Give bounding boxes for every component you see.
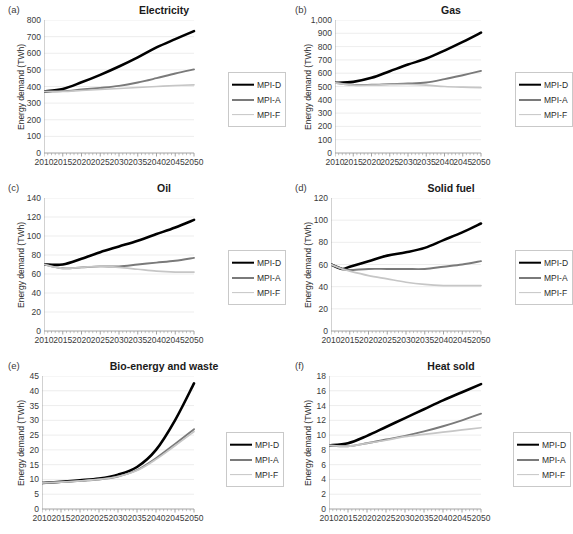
panel-title: Electricity [46,4,282,16]
x-axis-tick-label: 2010 [322,335,341,345]
x-axis-tick-label: 2040 [434,335,453,345]
x-axis-tick-label: 2045 [453,513,472,523]
series-line-mpi-d [44,220,194,265]
chart-panel-f: (f)Heat soldEnergy demand (TWh)024681012… [287,356,573,534]
chart-panel-e: (e)Bio-energy and wasteEnergy demand (TW… [0,356,286,534]
y-axis-tick-label: 40 [32,288,41,298]
series-line-mpi-f [329,428,481,447]
legend-item-mpi-d: MPI-D [232,255,281,270]
y-axis-tick-label: 25 [30,430,39,440]
y-axis-tick-label: 1,000 [311,15,332,25]
y-axis-label: Energy demand (TWh) [16,383,26,503]
y-axis-tick-label: 2 [321,489,326,499]
y-axis-tick-label: 16 [317,386,326,396]
x-axis-tick-label: 2025 [377,513,396,523]
x-axis-tick-label: 2045 [453,335,472,345]
legend: MPI-DMPI-AMPI-F [513,432,571,487]
x-axis-tick-label: 2020 [362,157,381,167]
y-axis-tick-label: 500 [27,65,41,75]
x-axis-tick-label: 2010 [35,335,54,345]
x-axis-tick-label: 2010 [33,513,52,523]
x-axis-tick-label: 2045 [166,513,185,523]
legend: MPI-DMPI-AMPI-F [515,72,573,127]
legend-item-mpi-d: MPI-D [232,77,281,92]
y-axis-tick-label: 12 [317,415,326,425]
legend: MPI-DMPI-AMPI-F [228,72,286,127]
x-axis-tick-label: 2030 [109,513,128,523]
panel-letter-label: (b) [295,4,307,15]
x-axis-tick-label: 2015 [340,335,359,345]
panel-title: Solid fuel [333,182,569,194]
y-axis-tick-label: 700 [27,32,41,42]
y-axis-tick-label: 10 [317,430,326,440]
y-axis-tick-label: 18 [317,371,326,381]
x-axis-tick-label: 2020 [71,513,90,523]
y-axis-tick-label: 14 [317,401,326,411]
plot-canvas [44,198,196,341]
x-axis-tick-label: 2035 [128,335,147,345]
x-axis-tick-label: 2020 [359,335,378,345]
x-axis-tick-label: 2035 [415,335,434,345]
chart-panel-a: (a)ElectricityEnergy demand (TWh)0100200… [0,0,286,178]
x-axis-tick-label: 2025 [378,335,397,345]
legend-item-mpi-d: MPI-D [517,437,566,452]
y-axis-tick-label: 600 [27,48,41,58]
legend-item-label: MPI-A [544,273,568,283]
legend: MPI-DMPI-AMPI-F [515,250,573,305]
y-axis-tick-label: 15 [30,460,39,470]
y-axis-tick-label: 100 [318,135,332,145]
plot-area: 01002003004005006007008009001,0002010201… [335,20,481,153]
y-axis-label: Energy demand (TWh) [303,205,313,325]
x-axis-tick-label: 2045 [166,157,185,167]
x-axis-tick-label: 2020 [72,157,91,167]
y-axis-tick-label: 10 [30,474,39,484]
x-axis-tick-label: 2030 [397,335,416,345]
y-axis-tick-label: 6 [321,460,326,470]
y-axis-tick-label: 80 [32,250,41,260]
y-axis-tick-label: 60 [319,260,328,270]
legend-item-label: MPI-D [542,440,566,450]
plot-canvas [329,376,483,519]
series-line-mpi-d [44,31,194,91]
y-axis-tick-label: 140 [27,193,41,203]
x-axis-tick-label: 2030 [399,157,418,167]
y-axis-tick-label: 5 [34,489,39,499]
y-axis-tick-label: 20 [319,304,328,314]
plot-canvas [335,20,483,163]
panel-letter-label: (d) [295,182,307,193]
x-axis-tick-label: 2025 [91,157,110,167]
x-axis-tick-label: 2030 [110,335,129,345]
legend-item-mpi-f: MPI-F [519,285,568,300]
panel-title: Oil [46,182,282,194]
x-axis-tick-label: 2015 [344,157,363,167]
x-axis-tick-label: 2045 [166,335,185,345]
y-axis-tick-label: 200 [27,115,41,125]
legend-item-mpi-d: MPI-D [230,437,279,452]
y-axis-tick-label: 120 [314,193,328,203]
legend-item-label: MPI-A [257,273,281,283]
legend-item-mpi-a: MPI-A [519,92,568,107]
panel-letter-label: (c) [8,182,19,193]
panel-title: Gas [333,4,569,16]
y-axis-tick-label: 40 [319,282,328,292]
plot-canvas [42,376,196,519]
y-axis-tick-label: 600 [318,68,332,78]
x-axis-tick-label: 2030 [110,157,129,167]
y-axis-tick-label: 500 [318,82,332,92]
plot-area: 0204060801001202010201520202025203020352… [331,198,481,331]
y-axis-tick-label: 700 [318,55,332,65]
legend-item-label: MPI-F [255,470,278,480]
x-axis-tick-label: 2035 [417,157,436,167]
x-axis-tick-label: 2010 [35,157,54,167]
y-axis-tick-label: 20 [30,445,39,455]
x-axis-tick-label: 2035 [128,513,147,523]
plot-area: 0510152025303540452010201520202025203020… [42,376,194,509]
y-axis-tick-label: 800 [318,42,332,52]
plot-area: 0100200300400500600700800201020152020202… [44,20,194,153]
y-axis-tick-label: 4 [321,474,326,484]
legend-item-mpi-f: MPI-F [517,467,566,482]
chart-panel-b: (b)GasEnergy demand (TWh)010020030040050… [287,0,573,178]
y-axis-tick-label: 45 [30,371,39,381]
y-axis-tick-label: 30 [30,415,39,425]
y-axis-label: Energy demand (TWh) [303,27,313,147]
